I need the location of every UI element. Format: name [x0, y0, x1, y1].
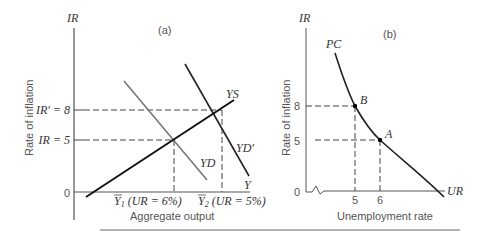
panel-a-y-label: Rate of inflation [23, 80, 35, 156]
tick-y1: Y1 (UR = 6%) [114, 194, 182, 209]
tick-5-b: 5 [294, 135, 300, 147]
yd-prime-label: YD' [236, 141, 254, 155]
point-b [353, 104, 357, 108]
phillips-curve [335, 53, 444, 197]
panel-a-x-label: Aggregate output [130, 210, 214, 222]
yd-prime-line [185, 64, 249, 176]
ys-label: YS [226, 87, 239, 101]
panel-b-x-axis-symbol: UR [447, 184, 464, 198]
panel-b: IR (b) UR Rate of inflation 8 5 0 PC B A… [280, 11, 464, 222]
panel-a-title: (a) [158, 24, 171, 36]
ys-line [86, 100, 234, 197]
xtick-5: 5 [352, 194, 358, 206]
tick-ir-prime-8: IR' = 8 [35, 103, 70, 117]
yd-line [124, 81, 207, 180]
tick-zero-b: 0 [294, 186, 300, 198]
panel-b-title: (b) [383, 28, 396, 40]
tick-y2: Y2 (UR = 5%) [198, 194, 266, 209]
tick-8-b: 8 [294, 100, 300, 112]
xtick-6: 6 [377, 194, 383, 206]
panel-a-y-axis-symbol: IR [66, 11, 79, 25]
panel-b-x-label: Unemployment rate [337, 210, 433, 222]
point-a [378, 138, 382, 142]
figure: IR (a) Y Rate of inflation IR' = 8 IR = … [0, 0, 486, 240]
panel-b-y-axis-symbol: IR [298, 11, 311, 25]
pc-label: PC [325, 37, 342, 51]
panel-b-y-label: Rate of inflation [280, 80, 292, 156]
panel-b-x-axis [306, 186, 445, 194]
point-a-label: A [384, 127, 393, 141]
svg-text:Y1 (UR = 6%): Y1 (UR = 6%) [114, 194, 182, 209]
svg-text:Y2 (UR = 5%): Y2 (UR = 5%) [198, 194, 266, 209]
tick-zero-a: 0 [64, 187, 70, 199]
point-b-label: B [360, 93, 368, 107]
panel-a: IR (a) Y Rate of inflation IR' = 8 IR = … [23, 11, 266, 222]
panel-a-x-axis-symbol: Y [244, 178, 252, 192]
tick-ir-5: IR = 5 [38, 133, 70, 147]
yd-label: YD [200, 156, 216, 170]
